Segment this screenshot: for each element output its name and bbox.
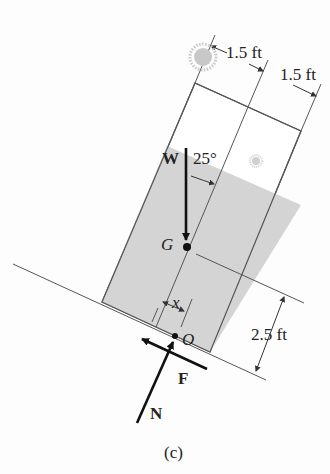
weight-label: W	[162, 150, 179, 167]
x-label: x	[172, 294, 180, 311]
sun-icon-large	[190, 44, 216, 70]
figure-caption: (c)	[164, 444, 183, 461]
normal-label: N	[150, 405, 162, 422]
dim-label-top-left: 1.5 ft	[226, 44, 262, 61]
o-point	[172, 333, 178, 339]
angle-label: 25°	[193, 150, 217, 167]
g-label: G	[161, 236, 173, 253]
o-label: O	[182, 331, 194, 348]
friction-label: F	[178, 370, 188, 387]
dim-label-right: 2.5 ft	[251, 326, 287, 343]
dim-label-top-right: 1.5 ft	[280, 66, 316, 83]
g-point	[183, 243, 191, 251]
